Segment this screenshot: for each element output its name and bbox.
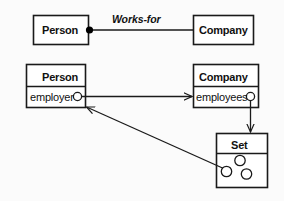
company-class-label: Company [199,25,248,36]
employees-slot-circle-icon[interactable] [246,92,254,100]
works-for-label: Works-for [112,14,161,25]
employer-slot-label: employer [30,92,74,103]
set-element-circle-icon[interactable] [235,155,245,165]
set-element-to-person-link[interactable] [87,107,223,168]
uml-association-diagram: Person Company Works-for Person employer… [0,0,284,201]
employer-slot-circle-icon[interactable] [73,92,81,100]
association-source-dot-icon [86,26,93,33]
set-object-header-label: Set [231,140,248,151]
company-object-header-label: Company [199,72,248,83]
person-class-label: Person [42,25,78,36]
set-element-circle-icon[interactable] [221,166,231,176]
person-object-header-label: Person [42,72,78,83]
employees-slot-label: employees [196,92,247,103]
set-element-circle-icon[interactable] [241,169,251,179]
